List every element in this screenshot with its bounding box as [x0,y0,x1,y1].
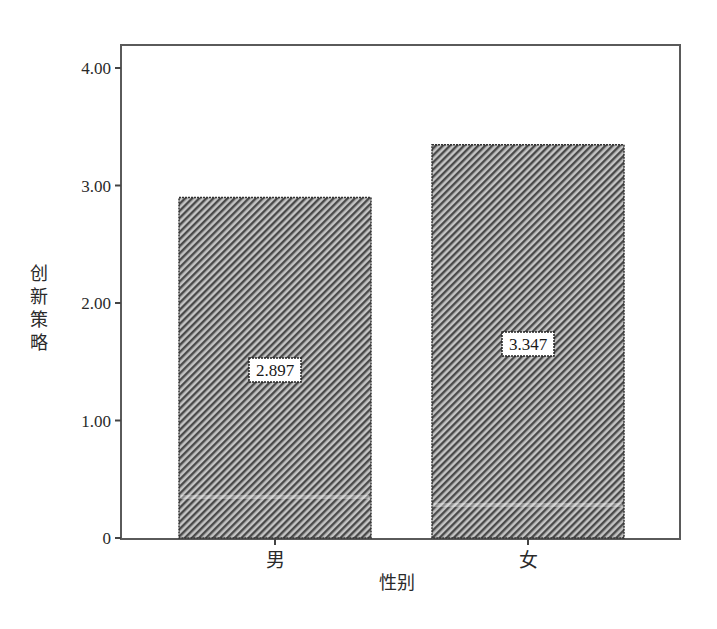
x-axis-title: 性别 [379,572,415,593]
y-tick-label: 1.00 [81,412,111,431]
y-tick-label: 3.00 [81,177,111,196]
scan-artifact [434,503,622,507]
y-tick-label: 0 [103,529,112,548]
y-tick-label: 4.00 [81,59,111,78]
y-axis: 01.002.003.004.00 [81,59,121,548]
y-axis-title: 创新策略 [30,263,48,353]
scan-artifact [181,495,369,499]
x-category-label: 女 [519,549,538,571]
x-category-label: 男 [266,549,285,571]
bar-chart: 01.002.003.004.00 2.8973.347 男女 性别 创新策略 [0,0,717,629]
y-tick-label: 2.00 [81,294,111,313]
data-label: 3.347 [509,335,548,354]
data-label: 2.897 [256,361,295,380]
x-axis: 男女 [266,539,538,571]
